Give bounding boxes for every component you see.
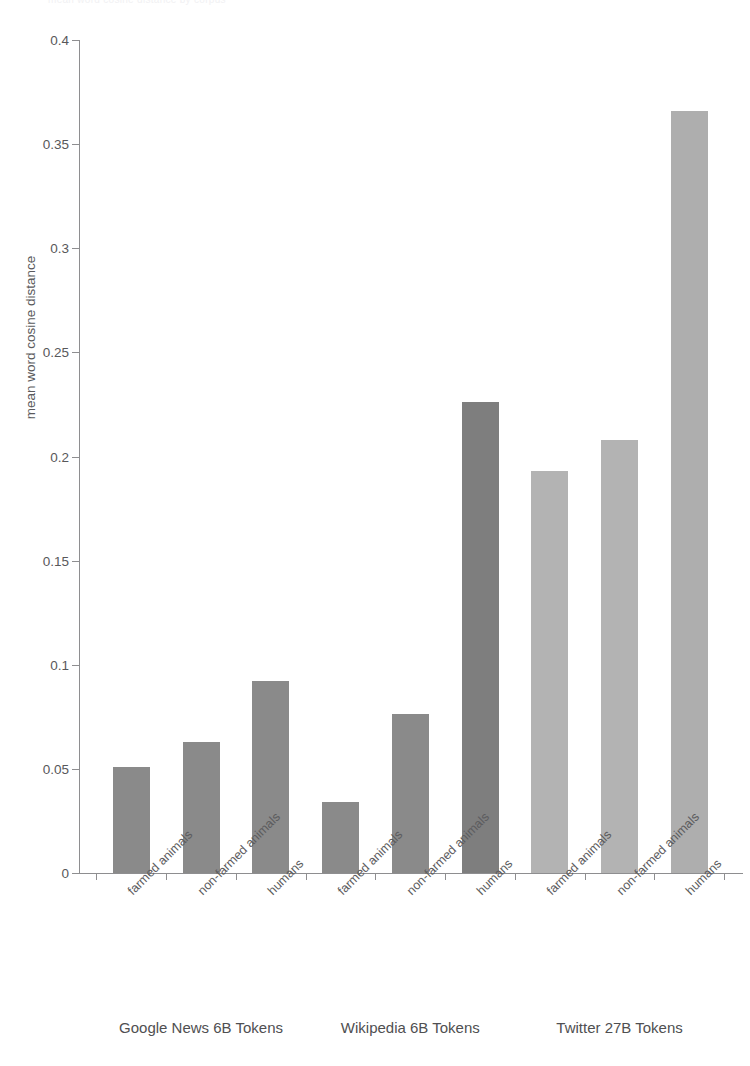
- x-axis-tick-mark: [654, 873, 655, 880]
- y-axis-tick-mark: [72, 873, 79, 874]
- group-label: Twitter 27B Tokens: [510, 1019, 730, 1036]
- y-axis-tick-mark: [72, 248, 79, 249]
- bar: [183, 742, 220, 873]
- x-axis-tick-mark: [96, 873, 97, 880]
- bar: [531, 471, 568, 873]
- x-axis-tick-mark: [375, 873, 376, 880]
- y-axis-tick-mark: [72, 40, 79, 41]
- group-label: Google News 6B Tokens: [91, 1019, 311, 1036]
- y-axis-tick-label: 0.4: [50, 33, 69, 48]
- bar-chart-figure: mean word cosine distance 00.050.10.150.…: [0, 0, 750, 1066]
- bar: [322, 802, 359, 873]
- x-axis-tick-mark: [166, 873, 167, 880]
- y-axis-tick-mark: [72, 352, 79, 353]
- x-axis-tick-mark: [585, 873, 586, 880]
- bar: [392, 714, 429, 873]
- group-label: Wikipedia 6B Tokens: [300, 1019, 520, 1036]
- y-axis-tick-label: 0.2: [50, 449, 69, 464]
- y-axis-tick-mark: [72, 561, 79, 562]
- y-axis-line: [79, 40, 80, 873]
- y-axis-tick-label: 0.1: [50, 657, 69, 672]
- x-axis-tick-mark: [515, 873, 516, 880]
- y-axis-tick-label: 0: [61, 866, 69, 881]
- y-axis-tick-label: 0.05: [43, 761, 69, 776]
- y-axis-tick-label: 0.15: [43, 553, 69, 568]
- bar: [671, 111, 708, 873]
- y-axis-tick-label: 0.3: [50, 241, 69, 256]
- y-axis-tick-mark: [72, 457, 79, 458]
- x-axis-tick-mark: [236, 873, 237, 880]
- y-axis-tick-mark: [72, 665, 79, 666]
- bar: [462, 402, 499, 873]
- x-axis-tick-mark: [724, 873, 725, 880]
- plot-area: 00.050.10.150.20.250.30.350.4: [79, 40, 743, 873]
- y-axis-tick-mark: [72, 144, 79, 145]
- y-axis-tick-label: 0.25: [43, 345, 69, 360]
- y-axis-tick-label: 0.35: [43, 137, 69, 152]
- bar: [601, 440, 638, 873]
- x-axis-tick-mark: [306, 873, 307, 880]
- y-axis-tick-mark: [72, 769, 79, 770]
- y-axis-title: mean word cosine distance: [23, 208, 38, 468]
- x-axis-tick-mark: [445, 873, 446, 880]
- bar: [113, 767, 150, 873]
